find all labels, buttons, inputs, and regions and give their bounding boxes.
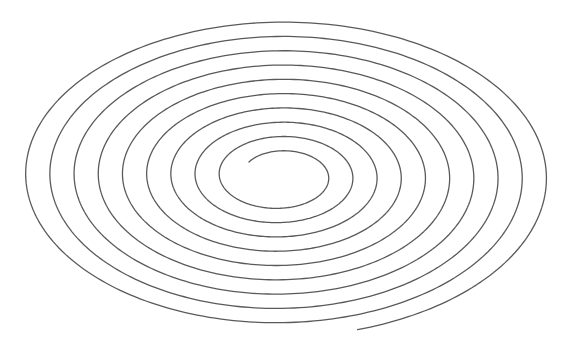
spiral-diagram xyxy=(0,0,565,338)
